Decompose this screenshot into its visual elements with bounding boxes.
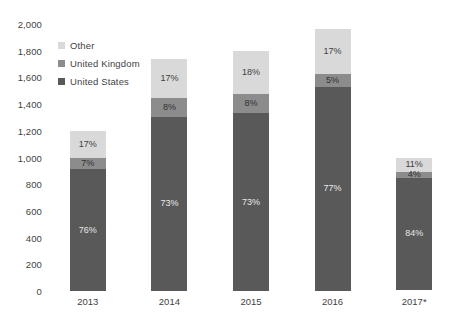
segment-percent-label: 73% [160, 199, 178, 208]
bar-2016[interactable]: 17%5%77% [315, 29, 351, 291]
legend-item-label: United Kingdom [70, 58, 140, 69]
y-axis-tick-label: 1,800 [0, 45, 42, 56]
legend-item-label: United States [70, 76, 129, 87]
segment-percent-label: 5% [326, 76, 339, 85]
legend-swatch-icon [58, 60, 65, 67]
y-axis: 02004006008001,0001,2001,4001,6001,8002,… [0, 24, 42, 291]
legend-item-other[interactable]: Other [58, 40, 140, 51]
legend-swatch-icon [58, 78, 65, 85]
segment-percent-label: 17% [79, 140, 97, 149]
stacked-bar-chart: 02004006008001,0001,2001,4001,6001,8002,… [0, 0, 462, 326]
legend-item-label: Other [70, 40, 95, 51]
bar-segment-other[interactable]: 18% [233, 51, 269, 94]
segment-percent-label: 8% [163, 103, 176, 112]
legend-item-united-states[interactable]: United States [58, 76, 140, 87]
bar-segment-united-kingdom[interactable]: 8% [233, 94, 269, 113]
legend-swatch-icon [58, 42, 65, 49]
segment-percent-label: 18% [242, 68, 260, 77]
bar-segment-other[interactable]: 17% [151, 59, 187, 99]
bar-2013[interactable]: 17%7%76% [70, 131, 106, 291]
bar-segment-united-kingdom[interactable]: 8% [151, 98, 187, 117]
segment-percent-label: 11% [406, 160, 423, 169]
bar-segment-other[interactable]: 17% [70, 131, 106, 158]
segment-percent-label: 7% [81, 159, 94, 168]
segment-percent-label: 76% [79, 226, 97, 235]
y-axis-tick-label: 200 [0, 259, 42, 270]
bar-segment-other[interactable]: 11% [396, 158, 432, 173]
legend-item-united-kingdom[interactable]: United Kingdom [58, 58, 140, 69]
y-axis-tick-label: 1,000 [0, 152, 42, 163]
x-axis: 20132014201520162017* [47, 296, 455, 316]
segment-percent-label: 77% [324, 184, 342, 193]
segment-percent-label: 8% [244, 99, 257, 108]
bar-2017[interactable]: 11%4%84% [396, 158, 432, 292]
clipped-header-artifact [0, 0, 462, 10]
bar-segment-united-states[interactable]: 73% [151, 117, 187, 291]
bar-segment-united-kingdom[interactable]: 7% [70, 158, 106, 169]
bar-segment-united-states[interactable]: 77% [315, 87, 351, 291]
y-axis-tick-label: 800 [0, 179, 42, 190]
segment-percent-label: 73% [242, 198, 260, 207]
y-axis-tick-label: 400 [0, 232, 42, 243]
bar-2014[interactable]: 17%8%73% [151, 59, 187, 291]
y-axis-tick-label: 1,600 [0, 72, 42, 83]
x-axis-tick-label: 2017* [402, 296, 427, 307]
segment-percent-label: 84% [405, 229, 423, 238]
bar-segment-other[interactable]: 17% [315, 29, 351, 73]
segment-percent-label: 17% [160, 74, 178, 83]
bar-segment-united-states[interactable]: 76% [70, 169, 106, 291]
y-axis-tick-label: 2,000 [0, 19, 42, 30]
bar-segment-united-states[interactable]: 73% [233, 113, 269, 291]
y-axis-tick-label: 0 [0, 286, 42, 297]
segment-percent-label: 17% [324, 47, 342, 56]
y-axis-tick-label: 600 [0, 205, 42, 216]
chart-legend: OtherUnited KingdomUnited States [58, 40, 140, 87]
x-axis-tick-label: 2013 [77, 296, 98, 307]
x-axis-tick-label: 2016 [322, 296, 343, 307]
x-axis-tick-label: 2015 [240, 296, 261, 307]
y-axis-tick-label: 1,400 [0, 99, 42, 110]
bar-segment-united-states[interactable]: 84% [396, 178, 432, 290]
y-axis-tick-label: 1,200 [0, 125, 42, 136]
bar-2015[interactable]: 18%8%73% [233, 51, 269, 291]
x-axis-tick-label: 2014 [159, 296, 180, 307]
bar-segment-united-kingdom[interactable]: 5% [315, 74, 351, 87]
